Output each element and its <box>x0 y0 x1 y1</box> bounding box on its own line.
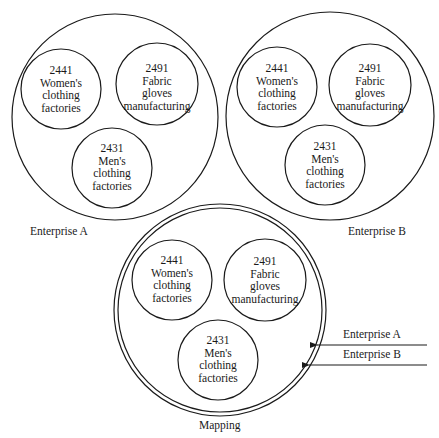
unit-name-line: gloves <box>231 280 298 293</box>
unit-name-line: Fabric <box>336 75 403 88</box>
unit-name-line: Men's <box>92 155 132 168</box>
mapping-unit-2491-label: 2491 Fabric gloves manufacturing <box>231 255 298 305</box>
enterprise-b-unit-2441-label: 2441 Women's clothing factories <box>256 62 298 112</box>
unit-name-line: factories <box>256 100 298 113</box>
unit-code: 2441 <box>151 254 193 267</box>
unit-code: 2431 <box>305 140 345 153</box>
unit-name-line: Women's <box>256 75 298 88</box>
unit-name-line: clothing <box>92 167 132 180</box>
enterprise-a-unit-2491-label: 2491 Fabric gloves manufacturing <box>123 62 190 112</box>
unit-name-line: Fabric <box>231 268 298 281</box>
mapping-caption: Mapping <box>199 419 241 432</box>
unit-name-line: clothing <box>256 87 298 100</box>
unit-name-line: gloves <box>123 87 190 100</box>
unit-name-line: factories <box>151 292 193 305</box>
enterprise-b-caption: Enterprise B <box>348 225 406 238</box>
unit-name-line: manufacturing <box>336 100 403 113</box>
arrow-label-enterprise-a: Enterprise A <box>343 328 401 341</box>
unit-name-line: factories <box>305 178 345 191</box>
unit-name-line: clothing <box>151 279 193 292</box>
unit-name-line: factories <box>40 102 82 115</box>
unit-code: 2431 <box>92 142 132 155</box>
unit-name-line: factories <box>92 180 132 193</box>
unit-name-line: clothing <box>305 165 345 178</box>
enterprise-a-unit-2431-label: 2431 Men's clothing factories <box>92 142 132 192</box>
unit-name-line: Women's <box>151 267 193 280</box>
arrow-label-enterprise-b: Enterprise B <box>343 348 401 361</box>
unit-name-line: clothing <box>40 89 82 102</box>
unit-name-line: gloves <box>336 87 403 100</box>
unit-name-line: Fabric <box>123 75 190 88</box>
unit-name-line: Men's <box>305 153 345 166</box>
enterprise-b-unit-2491-label: 2491 Fabric gloves manufacturing <box>336 62 403 112</box>
unit-name-line: factories <box>198 372 238 385</box>
mapping-unit-2431-label: 2431 Men's clothing factories <box>198 334 238 384</box>
unit-name-line: clothing <box>198 359 238 372</box>
unit-name-line: manufacturing <box>123 100 190 113</box>
unit-code: 2491 <box>336 62 403 75</box>
unit-code: 2441 <box>40 64 82 77</box>
unit-name-line: manufacturing <box>231 293 298 306</box>
enterprise-b-unit-2431-label: 2431 Men's clothing factories <box>305 140 345 190</box>
mapping-unit-2441-label: 2441 Women's clothing factories <box>151 254 193 304</box>
unit-name-line: Women's <box>40 77 82 90</box>
enterprise-a-caption: Enterprise A <box>30 225 88 238</box>
unit-code: 2491 <box>231 255 298 268</box>
unit-code: 2491 <box>123 62 190 75</box>
unit-code: 2431 <box>198 334 238 347</box>
unit-code: 2441 <box>256 62 298 75</box>
enterprise-a-unit-2441-label: 2441 Women's clothing factories <box>40 64 82 114</box>
unit-name-line: Men's <box>198 347 238 360</box>
